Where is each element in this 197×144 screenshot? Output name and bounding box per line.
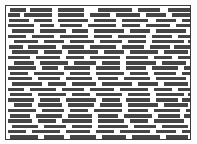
text-word-bar [62, 88, 84, 92]
text-row [6, 130, 191, 134]
text-word-bar [72, 125, 92, 129]
text-word-bar [128, 109, 148, 113]
text-word-bar [8, 119, 32, 123]
text-word-bar [32, 35, 54, 39]
text-word-bar [156, 93, 184, 97]
text-word-bar [176, 24, 191, 28]
text-word-bar [184, 66, 191, 70]
text-word-bar [96, 72, 124, 76]
text-word-bar [156, 19, 176, 23]
text-word-bar [32, 130, 60, 134]
text-word-bar [156, 130, 176, 134]
text-word-bar [62, 119, 92, 123]
text-row [6, 61, 191, 65]
text-word-bar [152, 35, 172, 39]
text-word-bar [88, 24, 116, 28]
text-word-bar [9, 19, 29, 23]
text-row [6, 66, 191, 70]
text-word-bar [100, 40, 122, 44]
text-word-bar [68, 103, 94, 107]
text-word-bar [96, 130, 114, 134]
text-word-bar [38, 77, 60, 81]
text-word-bar [166, 135, 188, 139]
text-word-bar [14, 40, 38, 44]
text-word-bar [12, 29, 34, 33]
text-word-bar [70, 109, 88, 113]
text-word-bar [38, 93, 66, 97]
text-word-bar [64, 66, 90, 70]
text-word-bar [48, 82, 66, 86]
text-row [6, 24, 191, 28]
text-word-bar [122, 24, 140, 28]
text-word-bar [10, 8, 26, 12]
text-word-bar [42, 109, 64, 113]
text-word-bar [124, 114, 152, 118]
text-word-bar [102, 61, 120, 65]
text-word-bar [8, 109, 36, 113]
text-word-bar [10, 114, 30, 118]
text-word-bar [156, 29, 186, 33]
text-word-bar [40, 24, 54, 28]
text-word-bar [94, 35, 112, 39]
text-word-bar [104, 50, 124, 54]
text-word-bar [188, 93, 191, 97]
text-row [6, 82, 191, 86]
text-block-frame [5, 5, 191, 140]
text-row [6, 119, 191, 123]
text-word-bar [44, 40, 64, 44]
text-word-bar [154, 109, 180, 113]
greeked-text-block [6, 6, 191, 140]
text-word-bar [96, 93, 122, 97]
text-word-bar [172, 13, 190, 17]
text-row [6, 98, 191, 102]
text-word-bar [8, 66, 36, 70]
text-word-bar [190, 61, 191, 65]
text-word-bar [36, 56, 60, 60]
text-word-bar [38, 103, 62, 107]
text-word-bar [8, 35, 26, 39]
text-row [6, 35, 191, 39]
text-word-bar [58, 13, 84, 17]
text-word-bar [8, 24, 34, 28]
text-row [6, 125, 191, 129]
text-word-bar [90, 88, 114, 92]
text-word-bar [174, 45, 190, 49]
text-word-bar [68, 50, 98, 54]
text-word-bar [12, 50, 38, 54]
text-word-bar [30, 88, 56, 92]
text-word-bar [94, 109, 122, 113]
text-word-bar [94, 19, 116, 23]
text-word-bar [44, 125, 66, 129]
text-word-bar [44, 135, 64, 139]
text-word-bar [40, 61, 68, 65]
text-word-bar [40, 98, 60, 102]
text-word-bar [152, 66, 178, 70]
text-word-bar [156, 77, 186, 81]
text-word-bar [8, 56, 30, 60]
text-row [6, 13, 191, 17]
text-row [6, 135, 191, 139]
text-word-bar [130, 119, 148, 123]
text-word-bar [152, 40, 184, 44]
text-word-bar [102, 135, 126, 139]
text-word-bar [70, 72, 90, 76]
text-row [6, 109, 191, 113]
text-word-bar [128, 103, 158, 107]
text-word-bar [72, 29, 88, 33]
text-word-bar [182, 130, 191, 134]
text-word-bar [116, 13, 140, 17]
text-word-bar [102, 98, 120, 102]
text-word-bar [126, 66, 146, 70]
text-word-bar [10, 93, 32, 97]
text-word-bar [162, 61, 186, 65]
text-word-bar [164, 103, 188, 107]
text-word-bar [154, 119, 184, 123]
text-word-bar [138, 8, 160, 12]
text-word-bar [72, 82, 96, 86]
text-word-bar [98, 119, 124, 123]
text-word-bar [34, 19, 52, 23]
text-word-bar [14, 103, 32, 107]
text-word-bar [8, 130, 26, 134]
text-word-bar [120, 88, 148, 92]
text-word-bar [138, 82, 158, 86]
